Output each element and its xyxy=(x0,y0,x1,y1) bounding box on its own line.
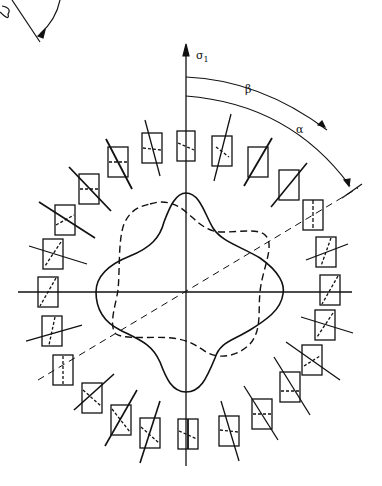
beta-arrowhead-icon xyxy=(318,121,325,127)
beta-label: β xyxy=(245,83,251,96)
ring-element xyxy=(303,200,323,230)
beta-arc xyxy=(186,77,327,130)
ring-element xyxy=(271,163,307,207)
axis-arrowhead-icon xyxy=(183,44,189,56)
ring-element xyxy=(26,316,82,346)
ring-element xyxy=(244,386,278,440)
ring-element xyxy=(212,114,232,181)
partial-figure-arrowhead xyxy=(38,30,45,38)
ring-element xyxy=(306,237,348,267)
sigma1-label: σ1 xyxy=(196,49,209,64)
element-ring xyxy=(26,114,353,463)
ring-element xyxy=(140,401,160,463)
partial-figure-arc xyxy=(40,0,60,34)
ring-element xyxy=(142,120,162,176)
alpha-direction-line xyxy=(38,188,358,380)
ring-element xyxy=(105,390,137,446)
alpha-end-tick xyxy=(342,184,362,198)
ring-element xyxy=(39,202,95,238)
partial-figure-fragment xyxy=(0,6,9,18)
ring-element xyxy=(301,310,353,340)
ring-element xyxy=(53,355,73,385)
ring-element xyxy=(244,138,272,186)
alpha-arrowhead-icon xyxy=(344,179,350,186)
partial-figure-line xyxy=(12,0,40,42)
ring-element xyxy=(74,374,114,413)
ring-element xyxy=(178,419,198,449)
ring-element xyxy=(29,239,87,269)
alpha-label: α xyxy=(296,123,304,136)
stress-diagram: σ1 β α xyxy=(0,0,382,486)
ring-element xyxy=(320,275,340,305)
ring-element xyxy=(286,342,340,380)
ring-element xyxy=(219,401,239,461)
ring-element xyxy=(106,139,132,189)
